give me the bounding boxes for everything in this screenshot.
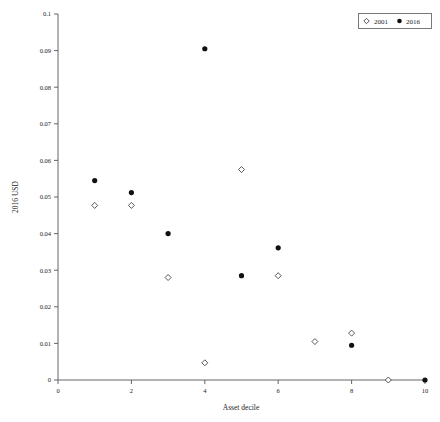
data-point-filled-circle: [276, 245, 281, 250]
y-tick-label: 0.08: [40, 84, 51, 91]
data-point-filled-circle: [129, 190, 134, 195]
series-2016-points: [92, 46, 428, 382]
y-tick-label: 0.06: [40, 157, 52, 164]
chart-legend[interactable]: 2001 2016: [359, 14, 432, 29]
y-tick-label: 0.02: [40, 303, 51, 310]
data-point-open-diamond: [312, 339, 318, 345]
y-axis-title: 2016 USD: [11, 180, 20, 212]
x-axis-title: Asset decile: [223, 403, 260, 412]
data-point-open-diamond: [349, 330, 355, 336]
data-point-filled-circle: [166, 231, 171, 236]
x-tick-label: 2: [130, 387, 133, 394]
data-point-open-diamond: [239, 167, 245, 173]
x-tick-label: 6: [277, 387, 281, 394]
y-tick-label: 0.03: [40, 267, 51, 274]
scatter-chart-figure: 0 0.01 0.02 0.03 0.04 0.05 0.06 0.07 0.0…: [0, 0, 440, 422]
y-tick-label: 0.01: [40, 340, 51, 347]
y-tick-label: 0.09: [40, 47, 51, 54]
y-axis-ticks: 0 0.01 0.02 0.03 0.04 0.05 0.06 0.07 0.0…: [40, 10, 58, 383]
data-point-open-diamond: [92, 202, 98, 208]
y-tick-label: 0.1: [43, 10, 51, 17]
data-point-open-diamond: [385, 377, 391, 383]
x-axis-ticks: 0 2 4 6 8 10: [56, 380, 428, 394]
data-point-filled-circle: [202, 46, 207, 51]
data-point-open-diamond: [165, 275, 171, 281]
data-point-filled-circle: [422, 377, 427, 382]
x-tick-label: 4: [203, 387, 207, 394]
y-tick-label: 0: [48, 376, 51, 383]
chart-canvas: 0 0.01 0.02 0.03 0.04 0.05 0.06 0.07 0.0…: [0, 0, 440, 422]
y-tick-label: 0.05: [40, 193, 51, 200]
filled-circle-icon: [397, 19, 402, 24]
data-point-open-diamond: [202, 360, 208, 366]
y-tick-label: 0.07: [40, 120, 52, 127]
data-point-filled-circle: [92, 178, 97, 183]
legend-label-2016: 2016: [406, 18, 421, 26]
x-tick-label: 0: [56, 387, 59, 394]
x-tick-label: 8: [350, 387, 353, 394]
legend-label-2001: 2001: [374, 18, 389, 26]
x-tick-label: 10: [422, 387, 429, 394]
data-point-filled-circle: [349, 343, 354, 348]
data-point-open-diamond: [128, 202, 134, 208]
y-tick-label: 0.04: [40, 230, 52, 237]
data-point-open-diamond: [275, 273, 281, 279]
data-point-filled-circle: [239, 273, 244, 278]
